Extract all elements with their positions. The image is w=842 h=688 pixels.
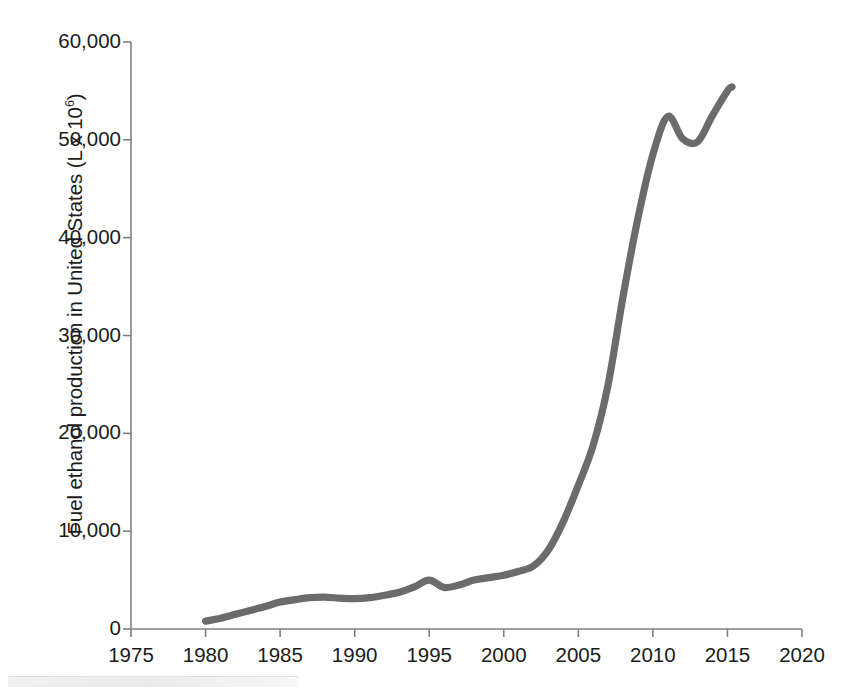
data-series-line: [206, 87, 732, 621]
chart-figure: Fuel ethanol production in United States…: [0, 0, 842, 688]
scan-edge-artifact: [8, 676, 298, 687]
plot-area: [0, 0, 842, 688]
axis-ticks: [123, 42, 802, 637]
